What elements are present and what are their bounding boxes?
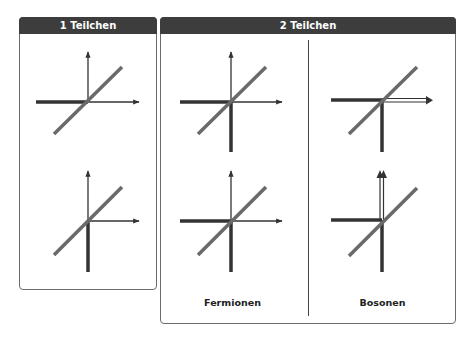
diagram-fermion-bottom bbox=[175, 165, 290, 280]
panel-header-one-particle: 1 Teilchen bbox=[19, 17, 157, 34]
panel-header-two-particles: 2 Teilchen bbox=[160, 17, 456, 34]
diagram-single-vertical bbox=[30, 165, 145, 280]
label-fermionen: Fermionen bbox=[175, 297, 290, 308]
diagram-fermion-top bbox=[175, 45, 290, 160]
diagram-boson-bottom bbox=[325, 165, 440, 280]
label-bosonen: Bosonen bbox=[325, 297, 440, 308]
diagram-boson-top bbox=[325, 45, 440, 160]
column-divider bbox=[308, 40, 309, 316]
diagram-single-horizontal bbox=[30, 45, 145, 145]
